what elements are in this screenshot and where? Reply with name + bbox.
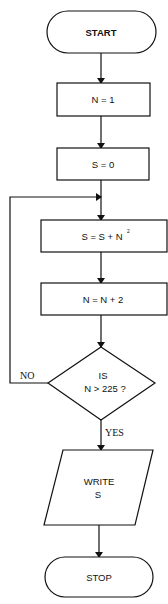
flowchart: START N = 1 S = 0 S = S + N 2 N = N + 2 … bbox=[0, 0, 168, 604]
init-s-box: S = 0 bbox=[57, 148, 149, 180]
no-edge-label: NO bbox=[20, 370, 34, 381]
start-label: START bbox=[86, 27, 117, 38]
output-label-line1: WRITE bbox=[84, 476, 115, 487]
decision-label-line2: N > 225 ? bbox=[84, 383, 125, 394]
output-parallelogram: WRITE S bbox=[44, 450, 153, 525]
decision-diamond: IS N > 225 ? bbox=[48, 347, 155, 420]
decision-label-line1: IS bbox=[99, 370, 108, 381]
increment-box: N = N + 2 bbox=[41, 283, 167, 315]
accumulate-box: S = S + N 2 bbox=[41, 220, 167, 252]
increment-label: N = N + 2 bbox=[83, 294, 124, 305]
stop-terminal: STOP bbox=[45, 557, 153, 597]
start-terminal: START bbox=[47, 11, 156, 53]
exponent-superscript: 2 bbox=[127, 228, 130, 234]
yes-edge-label: YES bbox=[105, 427, 124, 438]
init-n-box: N = 1 bbox=[57, 83, 150, 116]
stop-label: STOP bbox=[86, 572, 112, 583]
init-s-label: S = 0 bbox=[92, 159, 114, 170]
output-label-line2: S bbox=[95, 489, 101, 500]
init-n-label: N = 1 bbox=[92, 94, 115, 105]
accumulate-label: S = S + N bbox=[81, 231, 122, 242]
